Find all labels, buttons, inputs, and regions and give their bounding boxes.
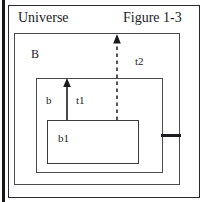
- figure-title: Figure 1-3: [123, 11, 182, 25]
- inner-b-label: b: [46, 95, 52, 106]
- page-edge: [2, 0, 5, 202]
- t1-label: t1: [76, 95, 85, 106]
- figure-diagram: Universe Figure 1-3 B t2 b t1 b1: [0, 0, 210, 202]
- inner-to-b-connector: [161, 134, 181, 137]
- b-label: B: [31, 48, 39, 60]
- b1-label: b1: [58, 133, 69, 144]
- universe-label: Universe: [18, 11, 69, 25]
- t2-label: t2: [135, 56, 144, 67]
